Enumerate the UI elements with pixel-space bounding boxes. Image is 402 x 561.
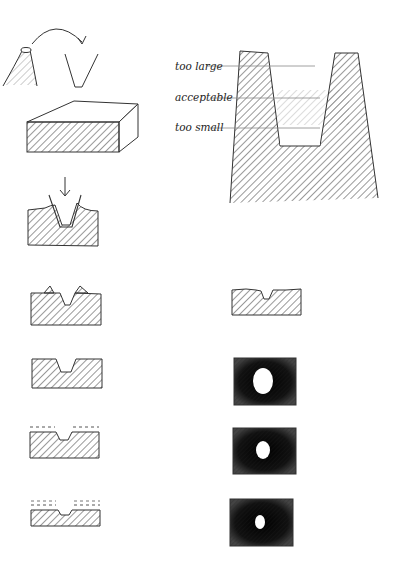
press-sketch <box>27 175 107 254</box>
cone-and-funnel-icon <box>0 20 110 95</box>
tooth-cross-section-icon <box>225 48 390 208</box>
hole-small-sketch <box>230 499 295 553</box>
label-too-large: too large <box>175 60 223 72</box>
label-acceptable: acceptable <box>175 91 233 103</box>
label-too-small: too small <box>175 121 224 133</box>
medium-hole-icon <box>233 428 298 478</box>
rough-groove-icon <box>231 287 306 322</box>
more-sanded-groove-icon <box>30 500 105 530</box>
hole-large-sketch <box>234 358 299 412</box>
press-icon <box>27 175 107 250</box>
burrs-sketch <box>30 283 105 327</box>
large-hole-icon <box>234 358 299 408</box>
groove-sketch <box>31 358 106 397</box>
hole-medium-sketch <box>233 428 298 482</box>
more-sanded-groove-sketch <box>30 500 105 534</box>
block-sketch <box>24 98 144 162</box>
rough-groove-sketch <box>231 287 306 326</box>
groove-with-burrs-icon <box>30 283 105 323</box>
tooth-diagram <box>225 48 390 212</box>
block-icon <box>24 98 144 158</box>
tool-flip-sketch <box>0 20 110 99</box>
groove-icon <box>31 358 106 393</box>
sanded-groove-icon <box>29 425 104 460</box>
small-hole-icon <box>230 499 295 549</box>
sanded-groove-sketch <box>29 425 104 464</box>
